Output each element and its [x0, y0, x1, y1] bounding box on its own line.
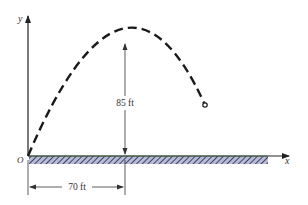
x-axis-label: x — [284, 155, 290, 166]
landing-point-marker — [203, 103, 207, 107]
y-axis-label: y — [17, 13, 23, 24]
projectile-diagram: y x O 85 ft 70 ft — [0, 0, 308, 205]
horizontal-distance-label: 70 ft — [68, 182, 86, 192]
ground — [29, 156, 268, 164]
origin-label: O — [17, 155, 24, 165]
trajectory-curve — [28, 28, 205, 156]
max-height-label: 85 ft — [116, 98, 134, 108]
